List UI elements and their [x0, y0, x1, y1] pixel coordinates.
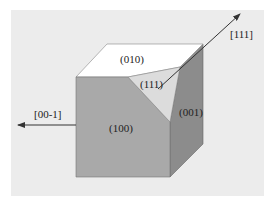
label-dir-00-1: [00-1] — [34, 108, 62, 120]
label-010: (010) — [120, 53, 144, 66]
label-100: (100) — [109, 122, 133, 135]
label-111: (111) — [140, 78, 163, 91]
crystal-cube-diagram: (010) (111) (001) (100) [111] [00-1] — [0, 0, 275, 203]
label-dir-111: [111] — [230, 28, 253, 40]
label-001: (001) — [179, 106, 203, 119]
